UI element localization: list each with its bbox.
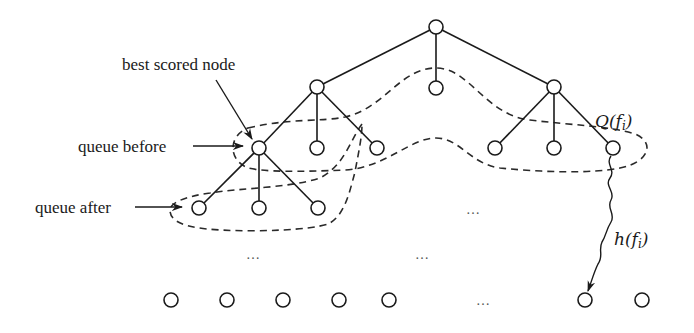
level2-node	[547, 141, 561, 155]
leaf-node	[276, 293, 290, 307]
leaf-node	[332, 293, 346, 307]
best-scored-node	[252, 141, 266, 155]
root-node	[429, 20, 443, 34]
leaf-node-target	[578, 293, 592, 307]
tree-nodes	[164, 20, 649, 307]
level3-node	[192, 201, 206, 215]
level1-node-right	[547, 80, 561, 94]
level3-node	[252, 201, 266, 215]
queue-after-label: queue after	[35, 198, 111, 217]
queue-function-label: Q(fi)	[595, 111, 632, 133]
level3-node	[311, 201, 325, 215]
ellipsis-level4-right: …	[415, 247, 431, 262]
best-scored-node-arrow	[216, 80, 252, 139]
leaf-node	[382, 293, 396, 307]
ellipsis-leaves: …	[476, 293, 492, 308]
best-scored-node-label: best scored node	[122, 55, 235, 74]
level1-node-middle	[429, 81, 443, 95]
level1-node-left	[310, 80, 324, 94]
ellipsis-level4-left: …	[246, 247, 262, 262]
level2-node-fi	[606, 141, 620, 155]
heuristic-wavy-arrow	[588, 156, 612, 291]
leaf-node	[220, 293, 234, 307]
tree-edges	[199, 27, 613, 208]
leaf-node	[164, 293, 178, 307]
search-tree-diagram: best scored node queue before queue afte…	[0, 0, 694, 333]
queue-before-label: queue before	[78, 137, 166, 156]
heuristic-function-label: h(fi)	[614, 229, 648, 251]
ellipsis-level3: …	[466, 202, 482, 217]
level2-node	[488, 141, 502, 155]
level2-node	[310, 141, 324, 155]
level2-node	[370, 141, 384, 155]
leaf-node	[635, 293, 649, 307]
